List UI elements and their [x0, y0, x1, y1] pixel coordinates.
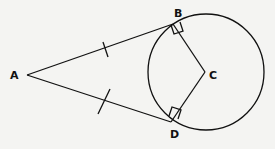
segment-bc [173, 24, 205, 72]
tick-mark-ab [103, 42, 108, 57]
tangent-circle-diagram: A B C D [0, 0, 275, 149]
label-d: D [170, 128, 179, 141]
label-a: A [10, 69, 19, 82]
segment-dc [171, 72, 205, 122]
circle [148, 14, 264, 130]
label-c: C [209, 69, 217, 82]
label-b: B [174, 7, 182, 20]
segment-ab [27, 24, 173, 75]
